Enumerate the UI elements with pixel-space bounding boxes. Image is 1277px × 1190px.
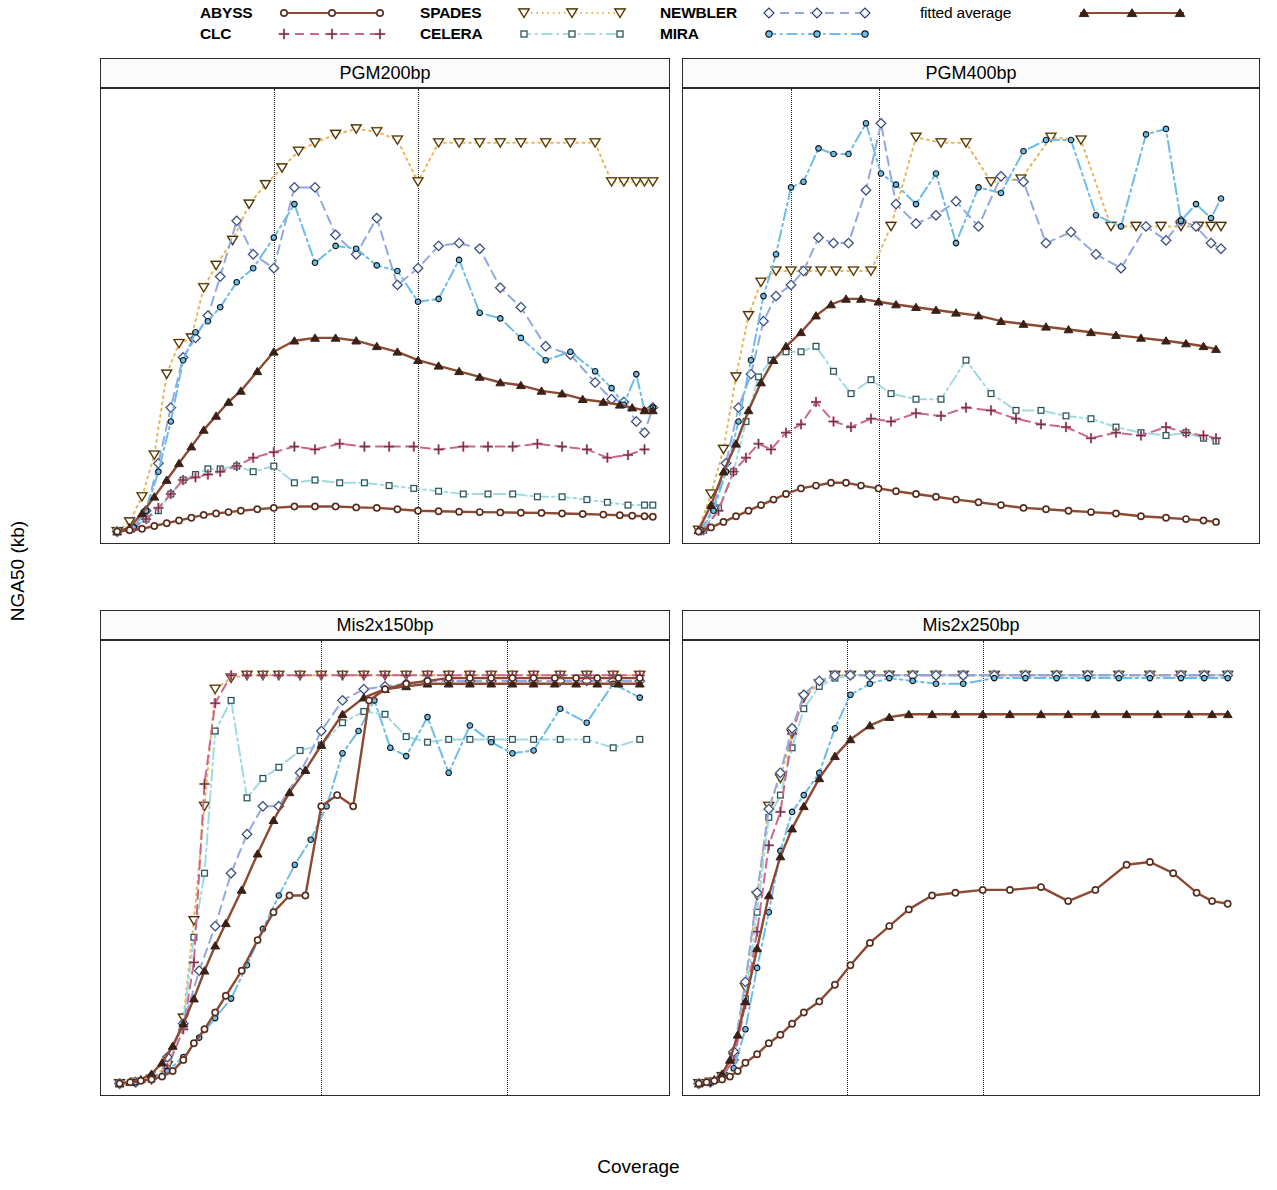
legend-key-triangle-up-icon: [1076, 5, 1188, 21]
x-axis-label: Coverage: [0, 1156, 1277, 1178]
legend-key-diamond-open-icon: [761, 5, 873, 21]
x-tick-mark: [891, 543, 892, 544]
panel-title: Mis2x250bp: [922, 615, 1019, 636]
x-tick-mark: [268, 1095, 269, 1096]
panel-pgm200bp: PGM200bp01020304050607080901001101201301…: [100, 58, 670, 544]
x-tick-mark: [1041, 543, 1042, 544]
series-mira: [696, 675, 1230, 1086]
panel-pgm400bp: PGM400bp020406080100120140160180200220: [682, 58, 1260, 544]
legend-label: SPADES: [420, 4, 510, 22]
series-celera: [696, 672, 1231, 1086]
x-tick-mark: [1080, 1095, 1081, 1096]
panel-mis2x150bp: Mis2x150bp010203040506070809010011012013…: [100, 610, 670, 1096]
series-layer: [101, 89, 669, 543]
x-tick-mark: [769, 1095, 770, 1096]
x-tick-mark: [991, 543, 992, 544]
x-tick-mark: [645, 543, 646, 544]
legend-item-fitted-average: fitted average: [920, 4, 1188, 22]
panel-title: PGM200bp: [339, 63, 430, 84]
series-newbler: [112, 183, 657, 537]
x-tick-mark: [847, 1095, 848, 1096]
legend-item-clc: CLC: [200, 25, 388, 43]
x-tick-mark: [587, 1095, 588, 1096]
series-abyss: [695, 480, 1219, 535]
series-fitted-average: [115, 680, 644, 1087]
plot-area: 0102030405060708090100110120130140150010…: [100, 640, 670, 1096]
x-tick-mark: [730, 1095, 731, 1096]
panel-title: Mis2x150bp: [336, 615, 433, 636]
x-tick-mark: [1091, 543, 1092, 544]
legend-item-spades: SPADES: [420, 4, 628, 22]
legend-item-mira: MIRA: [660, 25, 873, 43]
series-fitted-average: [113, 334, 657, 535]
x-tick-mark: [233, 543, 234, 544]
series-abyss: [114, 503, 656, 534]
x-tick-mark: [374, 1095, 375, 1096]
legend-label: CLC: [200, 25, 270, 43]
plot-area: 0102030405060708090100110120130140150010…: [100, 88, 670, 544]
x-tick-mark: [162, 1095, 163, 1096]
legend-item-newbler: NEWBLER: [660, 4, 873, 22]
panel-title-strip: Mis2x150bp: [100, 610, 670, 640]
x-tick-mark: [321, 1095, 322, 1096]
series-clc: [112, 439, 649, 537]
panel-title-strip: PGM200bp: [100, 58, 670, 88]
series-spades: [115, 671, 645, 1088]
x-tick-mark: [603, 543, 604, 544]
legend-key-circle-filled-icon: [761, 26, 873, 42]
panel-title: PGM400bp: [925, 63, 1016, 84]
x-tick-mark: [808, 1095, 809, 1096]
panel-title-strip: Mis2x250bp: [682, 610, 1260, 640]
legend-key-circle-open-icon: [276, 5, 388, 21]
x-tick-mark: [191, 543, 192, 544]
x-tick-mark: [109, 543, 110, 544]
x-tick-mark: [841, 543, 842, 544]
series-mira: [114, 201, 655, 534]
series-mira: [698, 121, 1224, 533]
x-tick-mark: [741, 543, 742, 544]
series-layer: [683, 89, 1259, 543]
x-tick-mark: [1197, 1095, 1198, 1096]
x-tick-mark: [109, 1095, 110, 1096]
legend-label: fitted average: [920, 4, 1070, 22]
x-tick-mark: [791, 543, 792, 544]
x-tick-mark: [397, 543, 398, 544]
x-tick-mark: [439, 543, 440, 544]
x-tick-mark: [562, 543, 563, 544]
plot-area: 0102030405060708090100110120130140: [682, 640, 1260, 1096]
panel-title-strip: PGM400bp: [682, 58, 1260, 88]
legend-label: MIRA: [660, 25, 755, 43]
figure-root: ABYSSCLCSPADESCELERANEWBLERMIRAfitted av…: [0, 0, 1277, 1190]
x-tick-mark: [885, 1095, 886, 1096]
x-tick-mark: [150, 543, 151, 544]
x-tick-mark: [315, 543, 316, 544]
series-celera: [117, 698, 643, 1087]
plot-area: 020406080100120140160180200220: [682, 88, 1260, 544]
y-axis-label: NGA50 (kb): [7, 491, 29, 651]
x-tick-mark: [356, 543, 357, 544]
legend-key-square-open-icon: [516, 26, 628, 42]
x-tick-mark: [1002, 1095, 1003, 1096]
x-tick-mark: [1235, 1095, 1236, 1096]
series-spades: [694, 133, 1227, 534]
series-clc: [115, 670, 645, 1088]
x-tick-mark: [963, 1095, 964, 1096]
x-tick-mark: [1119, 1095, 1120, 1096]
legend: ABYSSCLCSPADESCELERANEWBLERMIRAfitted av…: [0, 0, 1277, 48]
series-layer: [683, 641, 1259, 1095]
series-layer: [101, 641, 669, 1095]
panel-mis2x250bp: Mis2x250bp010203040506070809010011012013…: [682, 610, 1260, 1096]
x-tick-mark: [274, 543, 275, 544]
x-tick-mark: [215, 1095, 216, 1096]
series-fitted-average: [694, 710, 1232, 1087]
x-tick-mark: [481, 1095, 482, 1096]
x-tick-mark: [941, 543, 942, 544]
x-tick-mark: [1041, 1095, 1042, 1096]
legend-label: NEWBLER: [660, 4, 755, 22]
series-newbler: [696, 119, 1226, 535]
legend-label: ABYSS: [200, 4, 270, 22]
x-tick-mark: [1158, 1095, 1159, 1096]
legend-item-celera: CELERA: [420, 25, 628, 43]
x-tick-mark: [1241, 543, 1242, 544]
x-tick-mark: [924, 1095, 925, 1096]
